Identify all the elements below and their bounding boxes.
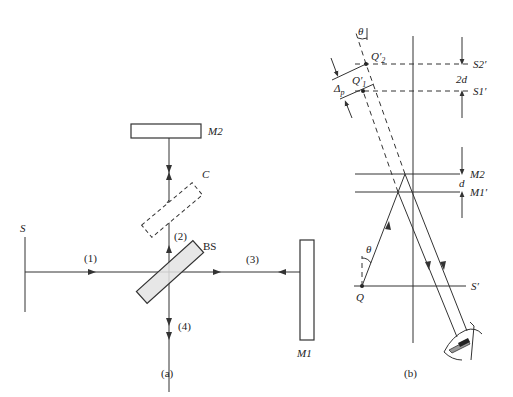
arrow-down-icon bbox=[166, 332, 172, 340]
arrow-down-icon bbox=[166, 165, 172, 173]
arrow-left-icon bbox=[278, 269, 286, 275]
michelson-interferometer-figure: S (1) (3) (2) (4) M2 C BS M1 bbox=[0, 0, 513, 397]
source-label: S bbox=[20, 222, 26, 234]
theta-bottom-label: θ bbox=[366, 243, 372, 255]
q-label: Q bbox=[356, 291, 364, 303]
arrow-up-icon bbox=[385, 221, 391, 230]
q1prime-label: Q′1 bbox=[352, 74, 366, 89]
theta-arc-top bbox=[358, 38, 367, 39]
arrow-right-icon bbox=[88, 269, 96, 275]
delta-arrow-bottom bbox=[346, 103, 352, 118]
arrow-down-icon bbox=[166, 318, 172, 326]
arrow-down-icon bbox=[425, 261, 431, 270]
q2prime-label: Q′2 bbox=[371, 50, 385, 65]
mirror-m1 bbox=[300, 240, 314, 340]
arrow-right-icon bbox=[213, 269, 221, 275]
virtual-ray-q2 bbox=[366, 64, 405, 174]
delta-p-label: Δp bbox=[333, 82, 344, 97]
s1prime-label: S1′ bbox=[473, 85, 487, 97]
delta-arrow-top bbox=[331, 58, 337, 74]
panel-a: S (1) (3) (2) (4) M2 C BS M1 bbox=[20, 124, 314, 392]
two-d-label: 2d bbox=[456, 73, 468, 85]
theta-top-label: θ bbox=[358, 25, 364, 37]
panel-b: S2′ S1′ 2d M2 M1′ d S′ Q θ bbox=[331, 25, 488, 380]
m2-label: M2 bbox=[469, 168, 485, 180]
arrow-up-icon bbox=[166, 172, 172, 180]
arrow-up-icon bbox=[166, 245, 172, 253]
incident-ray bbox=[362, 174, 405, 286]
reflected-ray-2 bbox=[405, 174, 467, 331]
compensator-plate bbox=[142, 183, 203, 238]
mirror-m2 bbox=[131, 124, 201, 138]
beam-label-2: (2) bbox=[174, 230, 187, 243]
beamsplitter-label: BS bbox=[203, 240, 216, 252]
d-label: d bbox=[459, 177, 465, 189]
panel-b-caption: (b) bbox=[404, 367, 417, 380]
s2prime-label: S2′ bbox=[473, 58, 487, 70]
m1prime-label: M1′ bbox=[469, 186, 488, 198]
mirror-m2-label: M2 bbox=[207, 125, 223, 137]
beam-label-3: (3) bbox=[246, 253, 259, 266]
eye-icon bbox=[444, 322, 482, 360]
panel-a-caption: (a) bbox=[161, 367, 174, 380]
beam-label-1: (1) bbox=[84, 252, 97, 265]
mirror-m1-label: M1 bbox=[296, 347, 312, 359]
compensator-label: C bbox=[202, 168, 210, 180]
sprime-label: S′ bbox=[471, 280, 480, 292]
beam-label-4: (4) bbox=[178, 320, 191, 333]
theta-arc-bottom bbox=[362, 258, 371, 263]
